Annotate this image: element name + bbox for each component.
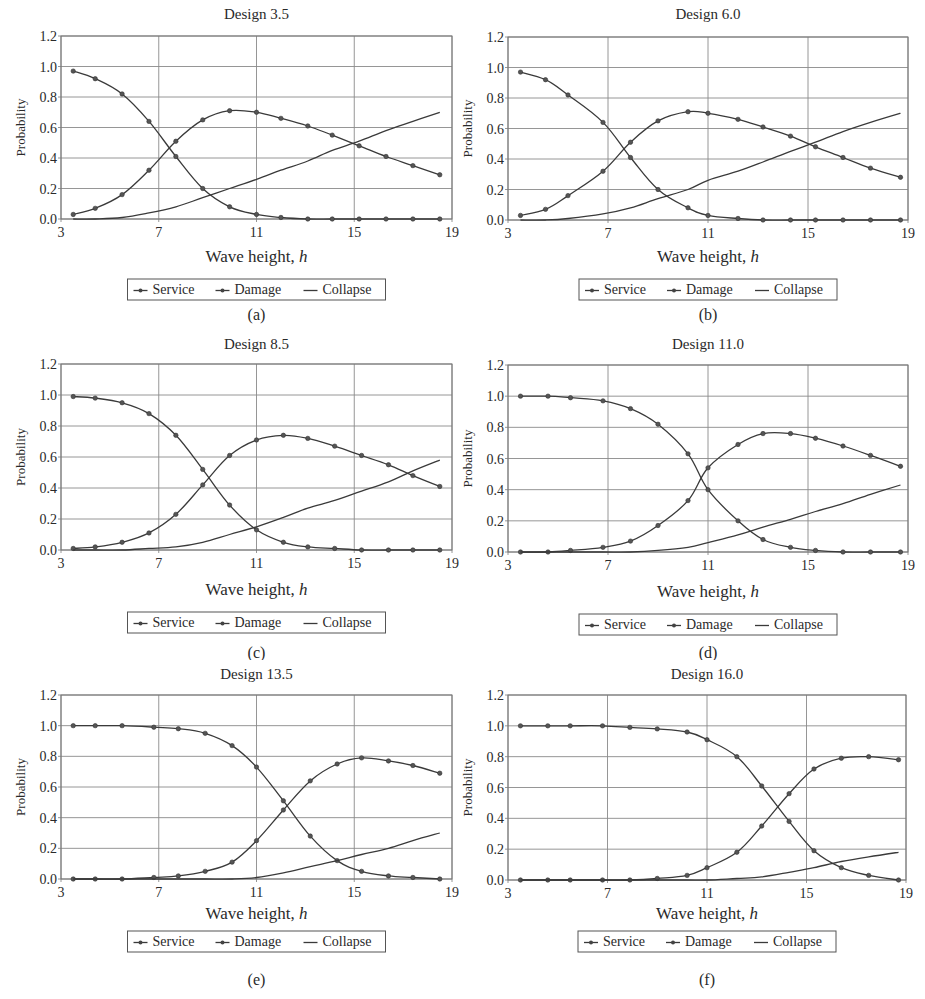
- data-point-marker: [411, 473, 415, 477]
- data-point-marker: [281, 433, 285, 437]
- data-point-marker: [279, 116, 283, 120]
- data-point-marker: [628, 725, 632, 729]
- data-point-marker: [93, 206, 97, 210]
- data-point-marker: [735, 850, 739, 854]
- data-point-marker: [93, 396, 97, 400]
- data-point-marker: [601, 545, 605, 549]
- data-point-marker: [628, 140, 632, 144]
- data-point-marker: [760, 784, 764, 788]
- panel-caption: (e): [248, 971, 266, 989]
- chart-c: Design 8.50.00.20.40.60.81.01.237111519P…: [0, 330, 462, 660]
- x-tick-label: 19: [901, 558, 915, 573]
- data-point-marker: [841, 218, 845, 222]
- chart-title: Design 6.0: [676, 6, 741, 22]
- data-point-marker: [546, 394, 550, 398]
- y-tick-label: 0.0: [40, 543, 58, 558]
- y-tick-label: 1.2: [487, 688, 505, 703]
- data-point-marker: [71, 212, 75, 216]
- data-point-marker: [868, 453, 872, 457]
- grid: [505, 365, 908, 555]
- legend-label: Collapse: [323, 615, 372, 630]
- x-tick-label: 11: [250, 556, 263, 571]
- y-tick-label: 0.2: [40, 512, 58, 527]
- data-point-marker: [254, 838, 258, 842]
- x-tick-label: 11: [700, 886, 713, 901]
- x-tick-label: 15: [800, 886, 814, 901]
- y-tick-label: 0.4: [40, 151, 58, 166]
- legend-label: Service: [153, 282, 195, 297]
- y-axis-label: Probability: [13, 98, 28, 156]
- data-point-marker: [438, 548, 442, 552]
- data-point-marker: [359, 548, 363, 552]
- data-point-marker: [147, 411, 151, 415]
- series-collapse: [521, 113, 901, 220]
- data-point-marker: [174, 139, 178, 143]
- data-point-marker: [201, 118, 205, 122]
- data-point-marker: [281, 808, 285, 812]
- x-tick-label: 15: [347, 225, 361, 240]
- data-point-marker: [386, 463, 390, 467]
- y-tick-label: 0.8: [487, 420, 505, 435]
- data-point-marker: [600, 724, 604, 728]
- data-point-marker: [761, 125, 765, 129]
- data-point-marker: [656, 422, 660, 426]
- legend-marker-icon: [221, 941, 225, 945]
- data-point-marker: [254, 528, 258, 532]
- data-point-marker: [411, 548, 415, 552]
- data-point-marker: [813, 145, 817, 149]
- y-tick-label: 0.0: [40, 212, 58, 227]
- data-point-marker: [866, 873, 870, 877]
- legend-marker-icon: [589, 941, 593, 945]
- y-tick-label: 0.6: [487, 781, 505, 796]
- y-tick-label: 0.4: [487, 152, 505, 167]
- x-tick-label: 7: [605, 558, 612, 573]
- legend-marker-icon: [671, 941, 675, 945]
- data-point-marker: [152, 725, 156, 729]
- y-tick-label: 0.8: [40, 419, 58, 434]
- y-tick-label: 0.2: [487, 183, 505, 198]
- data-point-marker: [898, 175, 902, 179]
- data-point-marker: [359, 756, 363, 760]
- legend-marker-icon: [139, 289, 143, 293]
- data-point-marker: [685, 873, 689, 877]
- x-tick-label: 15: [801, 558, 815, 573]
- y-tick-label: 1.0: [40, 388, 58, 403]
- data-point-marker: [568, 724, 572, 728]
- legend-label: Collapse: [774, 282, 823, 297]
- legend-marker-icon: [590, 624, 594, 628]
- data-point-marker: [411, 875, 415, 879]
- data-point-marker: [841, 550, 845, 554]
- data-point-marker: [686, 110, 690, 114]
- legend-label: Collapse: [323, 934, 372, 949]
- legend-label: Service: [153, 615, 195, 630]
- data-point-marker: [760, 824, 764, 828]
- y-axis-label: Probability: [13, 428, 28, 486]
- data-point-marker: [227, 503, 231, 507]
- legend-label: Collapse: [323, 282, 372, 297]
- legend-marker-icon: [139, 622, 143, 626]
- data-point-marker: [601, 169, 605, 173]
- x-tick-label: 15: [347, 556, 361, 571]
- data-point-marker: [543, 207, 547, 211]
- data-point-marker: [174, 154, 178, 158]
- data-point-marker: [335, 762, 339, 766]
- x-tick-label: 11: [701, 226, 714, 241]
- data-point-marker: [93, 77, 97, 81]
- data-point-marker: [174, 433, 178, 437]
- legend: ServiceDamageCollapse: [578, 931, 836, 952]
- legend: ServiceDamageCollapse: [579, 614, 837, 635]
- legend-marker-icon: [672, 289, 676, 293]
- data-point-marker: [438, 217, 442, 221]
- grid: [58, 36, 452, 222]
- data-point-marker: [357, 217, 361, 221]
- data-point-marker: [71, 394, 75, 398]
- data-point-marker: [120, 723, 124, 727]
- data-point-marker: [656, 523, 660, 527]
- x-axis-label: Wave height, h: [205, 904, 307, 923]
- data-point-marker: [896, 758, 900, 762]
- data-point-marker: [788, 431, 792, 435]
- x-tick-label: 3: [505, 558, 512, 573]
- data-point-marker: [203, 869, 207, 873]
- legend-label: Damage: [235, 282, 282, 297]
- data-point-marker: [359, 869, 363, 873]
